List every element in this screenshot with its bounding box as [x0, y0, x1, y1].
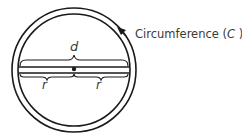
circumference-symbol: C: [227, 27, 235, 41]
radius-brace-left: [20, 74, 74, 80]
center-point: [72, 67, 76, 71]
diameter-label: d: [70, 39, 79, 54]
circle-diagram: d r r Circumference (C ): [0, 0, 242, 136]
diameter-brace: [20, 55, 128, 66]
circumference-label: Circumference (C ): [135, 27, 242, 41]
radius-brace-right: [74, 74, 128, 80]
circumference-close: ): [235, 27, 242, 41]
circumference-text: Circumference (: [135, 27, 227, 41]
